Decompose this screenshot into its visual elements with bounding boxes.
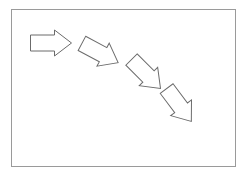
border-rectangle [12, 10, 236, 167]
drawing-canvas [0, 0, 247, 180]
arrow-sequence-diagram [0, 0, 247, 180]
